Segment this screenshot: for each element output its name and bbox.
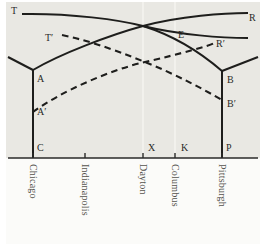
point-label-a-prime: A′ [37,107,46,117]
point-label-r: R [249,13,256,23]
figure-container: TRT′R′EABA′B′CXKP ChicagoIndianapolisDay… [0,0,270,246]
point-label--prime: P [226,143,232,153]
city-label-columbus: Columbus [170,164,180,207]
city-label-pittsburgh: Pittsburgh [217,164,227,207]
point-label-k: K [181,143,188,153]
point-label-x: X [148,143,155,153]
curve-5 [222,57,258,71]
point-label-t: T [11,6,17,16]
curve-8 [33,43,214,112]
city-label-dayton: Dayton [138,164,148,195]
point-label-r-prime: R′ [216,39,225,49]
point-label-a: A [37,74,44,84]
point-label-b: B [227,75,234,85]
city-label-indianapolis: Indianapolis [80,164,90,216]
point-label-c: C [37,143,44,153]
curve-0 [22,14,248,38]
city-label-chicago: Chicago [28,164,38,199]
chart-svg [0,0,270,246]
point-label-e: E [178,30,184,40]
point-label-b-prime: B′ [227,99,236,109]
point-label-t-prime: T′ [45,33,53,43]
curve-3 [8,57,33,70]
